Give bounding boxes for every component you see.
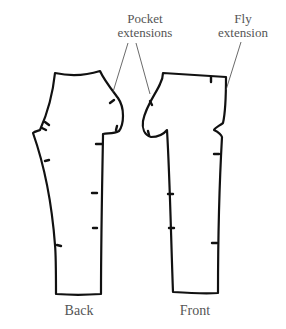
pocket-leader-front	[136, 43, 150, 94]
back-pattern-piece	[33, 71, 123, 295]
back-notch-pocket-1	[110, 100, 114, 103]
pocket-extensions-label: Pocket extensions	[100, 12, 190, 40]
fly-label-line1: Fly	[205, 12, 281, 26]
back-notch-crotch-2	[45, 122, 49, 125]
diagram-canvas: Pocket extensions Fly extension Back Fro…	[0, 0, 286, 329]
front-notch-pocket-2	[148, 131, 149, 135]
callout-leaders	[113, 42, 241, 94]
fly-label-line2: extension	[205, 26, 281, 40]
pattern-drawing	[0, 0, 286, 329]
pocket-leader-back	[113, 43, 128, 92]
front-notch-pocket-1	[150, 101, 152, 105]
front-pattern-piece	[143, 73, 226, 293]
pocket-label-line2: extensions	[100, 26, 190, 40]
fly-extension-label: Fly extension	[205, 12, 281, 40]
front-piece-label: Front	[168, 304, 222, 318]
back-notch-seat	[45, 160, 49, 161]
back-notch-crotch-1	[42, 128, 46, 130]
fly-leader	[226, 42, 241, 90]
pocket-label-line1: Pocket	[100, 12, 190, 26]
front-outline	[143, 73, 226, 293]
back-notch-pocket-2	[116, 126, 117, 130]
back-piece-label: Back	[52, 304, 106, 318]
back-outline	[33, 71, 123, 295]
back-notch-outseam	[57, 245, 61, 246]
